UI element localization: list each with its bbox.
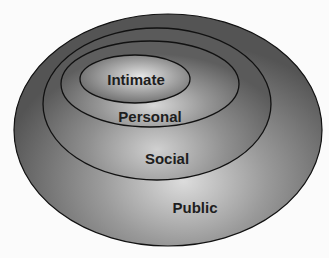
personal-label: Personal [118, 108, 181, 125]
social-label: Social [145, 150, 189, 167]
zone-ellipses [0, 0, 329, 258]
public-label: Public [172, 199, 217, 216]
proxemics-diagram: Intimate Personal Social Public [0, 0, 329, 258]
intimate-label: Intimate [107, 71, 165, 88]
